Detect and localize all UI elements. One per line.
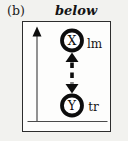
node-y-tag: tr xyxy=(88,101,99,113)
node-x-tag: lm xyxy=(87,38,102,50)
y-axis-arrowhead xyxy=(33,27,42,37)
node-y-label: Y xyxy=(68,99,76,112)
edge-arrowhead-up xyxy=(66,53,79,63)
figure-panel-b: (b) below X lm Y tr xyxy=(0,0,128,141)
panel-label: (b) xyxy=(7,3,25,19)
figure-title: below xyxy=(55,3,97,18)
edge-arrowhead-down xyxy=(66,84,79,94)
plot-box: X lm Y tr xyxy=(22,21,111,132)
node-x-label: X xyxy=(68,34,77,47)
